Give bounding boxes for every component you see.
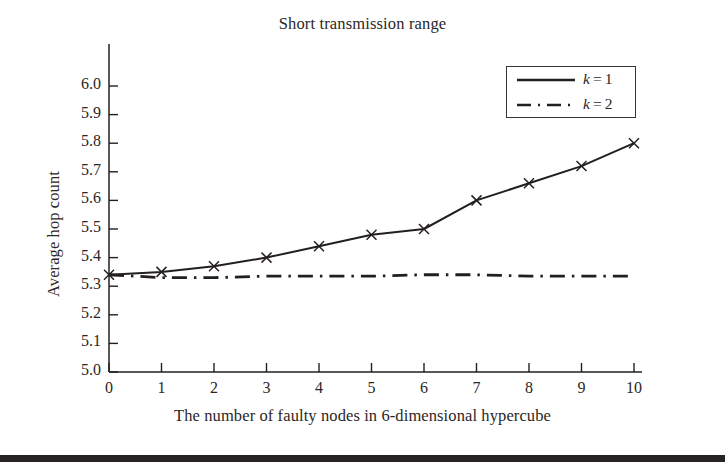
legend-line-solid-icon: [515, 67, 577, 93]
y-axis-tick-label: 5.5: [57, 218, 101, 236]
data-point-marker: [524, 178, 534, 188]
y-axis-tick-label: 5.3: [57, 275, 101, 293]
y-axis-tick-label: 5.7: [57, 161, 101, 179]
chart-legend: k = 1 k = 2: [506, 66, 636, 118]
x-axis-tick-label: 6: [404, 379, 444, 397]
y-axis-tick-label: 5.6: [57, 189, 101, 207]
legend-label-k2: k = 2: [583, 95, 613, 113]
page-footer-bar: [0, 455, 725, 462]
x-axis-tick-label: 4: [299, 379, 339, 397]
y-axis-tick-label: 5.1: [57, 332, 101, 350]
x-axis-tick-label: 9: [562, 379, 602, 397]
x-axis-tick-label: 10: [614, 379, 654, 397]
y-axis-tick-label: 6.0: [57, 75, 101, 93]
series-line-1: [109, 143, 634, 275]
x-axis-tick-label: 1: [142, 379, 182, 397]
data-point-marker: [472, 195, 482, 205]
x-axis-tick-label: 0: [89, 379, 129, 397]
y-axis-tick-label: 5.0: [57, 361, 101, 379]
y-axis-tick-label: 5.2: [57, 304, 101, 322]
y-axis-tick-label: 5.9: [57, 104, 101, 122]
legend-entry-k1: k = 1: [507, 67, 637, 93]
legend-entry-k2: k = 2: [507, 92, 637, 118]
x-axis-tick-label: 3: [247, 379, 287, 397]
x-axis-tick-label: 5: [352, 379, 392, 397]
legend-label-k1: k = 1: [583, 70, 613, 88]
y-axis-tick-label: 5.4: [57, 247, 101, 265]
data-point-marker: [577, 161, 587, 171]
x-axis-tick-label: 2: [194, 379, 234, 397]
x-axis-tick-label: 7: [457, 379, 497, 397]
data-point-marker: [629, 138, 639, 148]
y-axis-tick-label: 5.8: [57, 132, 101, 150]
x-axis-tick-label: 8: [509, 379, 549, 397]
legend-line-dashdot-icon: [515, 92, 577, 118]
series-line-2: [109, 275, 634, 278]
figure-panel: Short transmission range Average hop cou…: [0, 0, 725, 466]
